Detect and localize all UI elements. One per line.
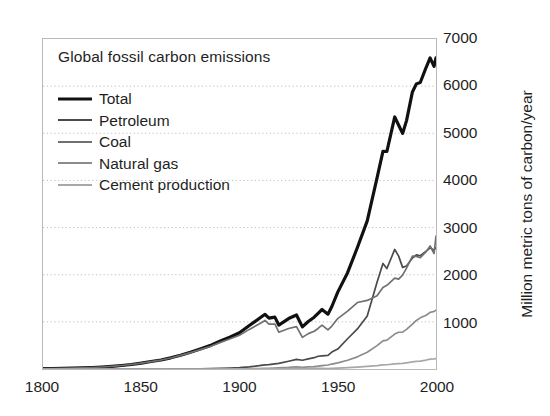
y-tick-label: 2000 xyxy=(443,266,477,284)
legend-item-cement-production: Cement production xyxy=(58,174,308,196)
legend-swatch-cement xyxy=(58,179,92,191)
y-tick-label: 4000 xyxy=(443,171,477,189)
legend-label-total: Total xyxy=(99,91,132,107)
legend-label-petroleum: Petroleum xyxy=(99,113,170,129)
legend-swatch-coal xyxy=(58,136,92,148)
legend-item-coal: Coal xyxy=(58,131,308,153)
y-tick-label: 1000 xyxy=(443,314,477,332)
chart-legend: Total Petroleum Coal Natural gas Cement … xyxy=(58,88,308,196)
legend-swatch-total xyxy=(58,93,92,105)
series-line-natural-gas xyxy=(43,310,436,369)
x-tick-label: 2000 xyxy=(420,378,454,396)
legend-item-petroleum: Petroleum xyxy=(58,110,308,132)
series-line-coal xyxy=(43,236,436,369)
y-tick-label: 7000 xyxy=(443,29,477,47)
legend-item-total: Total xyxy=(58,88,308,110)
x-tick-label: 1900 xyxy=(222,378,256,396)
x-tick-label: 1800 xyxy=(25,378,59,396)
legend-item-natural-gas: Natural gas xyxy=(58,153,308,175)
y-tick-label: 3000 xyxy=(443,219,477,237)
legend-swatch-petroleum xyxy=(58,114,92,126)
chart-title: Global fossil carbon emissions xyxy=(58,48,270,66)
y-axis-label: Million metric tons of carbon/year xyxy=(516,38,538,370)
y-tick-label: 5000 xyxy=(443,124,477,142)
chart-figure: Global fossil carbon emissions Total Pet… xyxy=(0,0,550,416)
legend-label-coal: Coal xyxy=(99,134,131,150)
legend-label-cement-production: Cement production xyxy=(99,177,230,193)
legend-swatch-natural-gas xyxy=(58,157,92,169)
x-tick-label: 1850 xyxy=(124,378,158,396)
series-line-petroleum xyxy=(43,247,436,369)
legend-label-natural-gas: Natural gas xyxy=(99,156,178,172)
y-tick-label: 6000 xyxy=(443,76,477,94)
x-tick-label: 1950 xyxy=(321,378,355,396)
